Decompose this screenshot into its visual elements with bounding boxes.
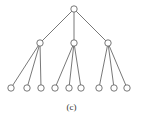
leaf-node (52, 85, 58, 91)
edge-internal-to-leaf (74, 43, 81, 88)
internal-node (37, 40, 43, 46)
leaf-node (96, 85, 102, 91)
edge-internal-to-leaf (11, 43, 40, 88)
tree-edges (11, 9, 127, 88)
internal-node (71, 40, 77, 46)
edge-internal-to-leaf (99, 43, 108, 88)
edge-internal-to-leaf (40, 43, 41, 88)
internal-node (105, 40, 111, 46)
edge-internal-to-leaf (27, 43, 40, 88)
leaf-node (38, 85, 44, 91)
leaf-node (111, 85, 117, 91)
tree-nodes (8, 6, 130, 91)
figure-caption: (c) (0, 102, 143, 112)
edge-root-to-internal (40, 9, 74, 43)
edge-root-to-internal (74, 9, 108, 43)
root-node (71, 6, 77, 12)
leaf-node (78, 85, 84, 91)
leaf-node (24, 85, 30, 91)
leaf-node (66, 85, 72, 91)
leaf-node (8, 85, 14, 91)
leaf-node (124, 85, 130, 91)
